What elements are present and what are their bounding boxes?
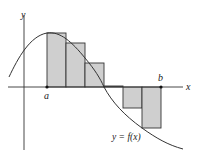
rectangle-6 — [142, 87, 161, 128]
a-label: a — [44, 90, 49, 101]
point-b — [159, 85, 162, 88]
rectangle-3 — [85, 63, 104, 87]
y-axis-label: y — [20, 9, 26, 20]
rectangle-1 — [47, 33, 66, 87]
rectangles — [47, 33, 161, 128]
rectangle-2 — [66, 43, 85, 87]
riemann-sum-diagram: y x a b y = f(x) — [0, 0, 198, 162]
x-axis-label: x — [185, 81, 191, 92]
rectangle-5 — [123, 87, 142, 108]
b-label: b — [158, 72, 163, 83]
curve-label: y = f(x) — [111, 132, 141, 143]
point-a — [45, 85, 48, 88]
